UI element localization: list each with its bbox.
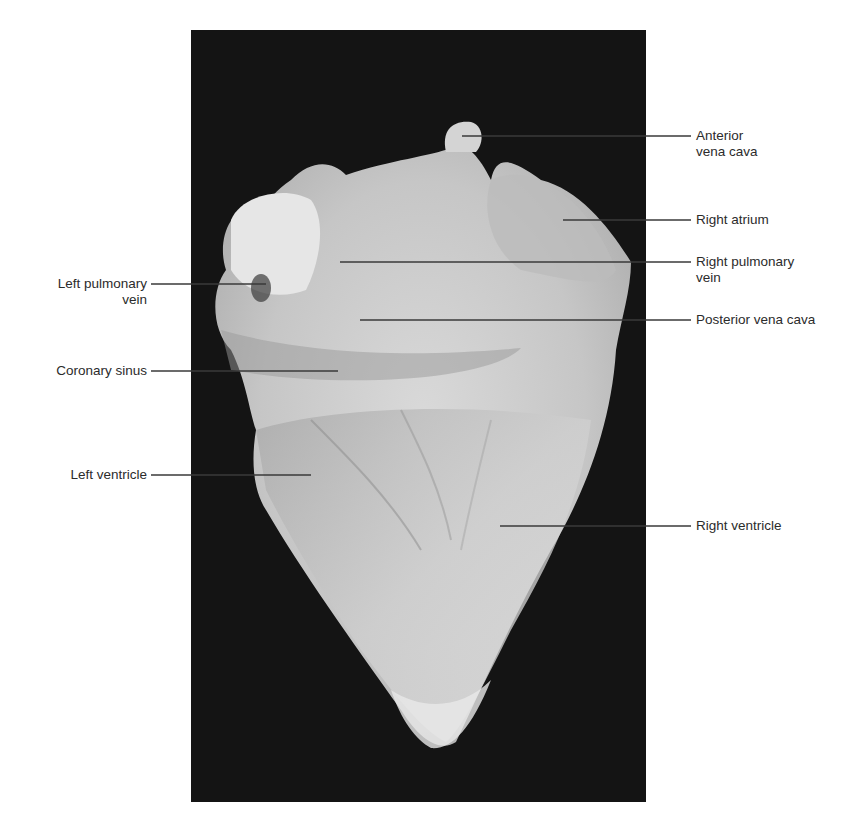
label-right-atrium: Right atrium xyxy=(696,212,769,228)
label-left-pulmonary-vein: Left pulmonary vein xyxy=(58,276,147,308)
label-right-ventricle: Right ventricle xyxy=(696,518,782,534)
label-posterior-vena-cava: Posterior vena cava xyxy=(696,312,815,328)
heart-anatomy-figure: Left pulmonary vein Coronary sinus Left … xyxy=(0,0,867,824)
label-right-pulmonary-vein: Right pulmonary vein xyxy=(696,254,794,286)
label-coronary-sinus: Coronary sinus xyxy=(56,363,147,379)
heart-photograph xyxy=(191,30,646,802)
label-left-ventricle: Left ventricle xyxy=(70,467,147,483)
label-anterior-vena-cava: Anterior vena cava xyxy=(696,128,758,160)
heart-illustration xyxy=(191,30,646,802)
